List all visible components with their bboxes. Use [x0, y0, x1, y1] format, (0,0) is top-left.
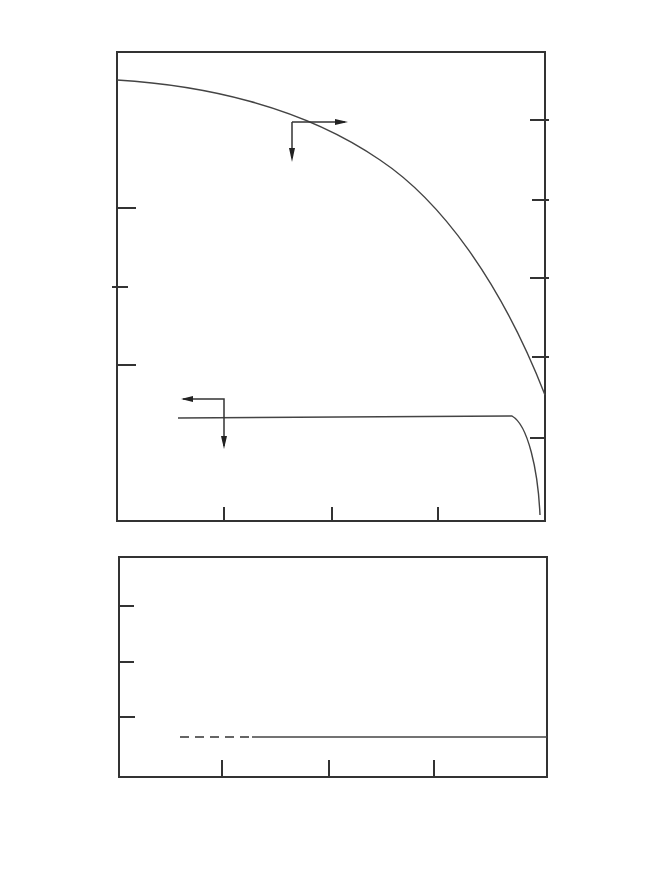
cyclohexane-fit-line — [178, 416, 540, 515]
bottom-panel-frame — [119, 557, 547, 777]
i-pentane-fit-curve — [117, 80, 545, 395]
left-axis-arrow-annotation — [181, 396, 227, 449]
figure — [0, 0, 671, 892]
top-panel — [112, 52, 549, 521]
bottom-panel — [119, 557, 547, 777]
